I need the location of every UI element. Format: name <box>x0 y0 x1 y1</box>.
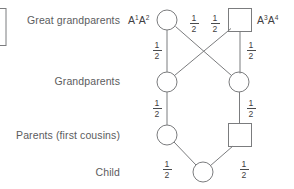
allele-right-sup-2: 4 <box>275 14 279 21</box>
edge-label-parent-right-child: 1 2 <box>237 160 251 179</box>
node-parent-right <box>229 124 252 147</box>
cropped-frame-rect <box>0 9 6 46</box>
node-great-grandmother-left <box>157 10 177 30</box>
fraction-numerator: 1 <box>244 99 258 108</box>
fraction-denominator: 2 <box>244 51 258 60</box>
allele-right-gene-1: A <box>257 14 264 26</box>
edge-parent-left-to-child <box>174 142 196 165</box>
edge-label-parent-left-child: 1 2 <box>160 160 174 179</box>
node-grandparent-left <box>157 72 177 92</box>
fraction-numerator: 1 <box>208 14 222 23</box>
node-grandparent-right <box>229 72 249 92</box>
fraction-numerator: 1 <box>150 41 164 50</box>
row-label-grandparents: Grandparents <box>10 76 120 87</box>
fraction-numerator: 1 <box>160 160 174 169</box>
fraction-denominator: 2 <box>150 109 164 118</box>
allele-left-sup-2: 2 <box>146 14 150 21</box>
edge-label-gp-right-down: 1 2 <box>244 99 258 118</box>
fraction-denominator: 2 <box>160 170 174 179</box>
edge-gg-right-to-gp-left <box>175 29 232 76</box>
fraction-denominator: 2 <box>244 109 258 118</box>
row-label-parents: Parents (first cousins) <box>2 130 120 141</box>
allele-label-left: A1A2 <box>128 15 149 26</box>
fraction-denominator: 2 <box>208 24 222 33</box>
edge-label-gg-left-cross: 1 2 <box>187 14 201 33</box>
fraction-numerator: 1 <box>237 160 251 169</box>
edge-label-gg-left-down: 1 2 <box>150 41 164 60</box>
edge-label-gp-left-down: 1 2 <box>150 99 164 118</box>
allele-label-right: A3A4 <box>257 15 278 26</box>
pedigree-diagram: Great grandparents Grandparents Parents … <box>0 0 294 189</box>
edge-parent-right-to-child <box>210 146 233 166</box>
fraction-numerator: 1 <box>150 99 164 108</box>
node-great-grandfather-right <box>229 9 252 32</box>
row-label-child: Child <box>10 167 120 178</box>
fraction-denominator: 2 <box>150 51 164 60</box>
fraction-denominator: 2 <box>187 24 201 33</box>
allele-left-gene-2: A <box>139 14 146 26</box>
allele-left-gene-1: A <box>128 14 135 26</box>
edge-label-gg-right-down: 1 2 <box>244 41 258 60</box>
fraction-numerator: 1 <box>187 14 201 23</box>
row-label-great-grandparents: Great grandparents <box>10 15 120 26</box>
allele-right-gene-2: A <box>268 14 275 26</box>
fraction-numerator: 1 <box>244 41 258 50</box>
edge-label-gg-right-cross: 1 2 <box>208 14 222 33</box>
fraction-denominator: 2 <box>237 170 251 179</box>
